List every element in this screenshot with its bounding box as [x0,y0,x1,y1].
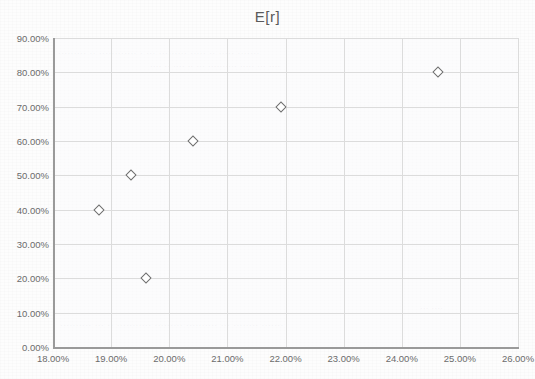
x-axis-tick-label: 18.00% [37,353,69,364]
gridline-vertical [344,38,345,347]
y-axis-tick-label: 90.00% [1,33,49,44]
y-axis-tick-label: 70.00% [1,101,49,112]
y-axis-tick-label: 0.00% [1,342,49,353]
y-axis-tick-label: 50.00% [1,170,49,181]
data-point-marker[interactable] [187,135,198,146]
data-point-marker[interactable] [432,67,443,78]
data-point-marker[interactable] [140,273,151,284]
x-axis-tick-label: 22.00% [269,353,301,364]
gridline-vertical [169,38,170,347]
y-axis-tick-label: 10.00% [1,307,49,318]
data-point-marker[interactable] [93,204,104,215]
chart-title: E[r] [0,8,535,25]
gridline-vertical [402,38,403,347]
x-axis-line [53,347,519,349]
y-axis-tick-label: 30.00% [1,239,49,250]
y-axis-tick-label: 80.00% [1,67,49,78]
x-axis-tick-label: 26.00% [502,353,534,364]
x-axis-tick-labels: 18.00%19.00%20.00%21.00%22.00%23.00%24.0… [0,353,535,369]
gridline-vertical [111,38,112,347]
y-axis-tick-label: 60.00% [1,136,49,147]
x-axis-tick-label: 20.00% [153,353,185,364]
x-axis-tick-label: 23.00% [328,353,360,364]
gridline-vertical [227,38,228,347]
x-axis-tick-label: 25.00% [444,353,476,364]
gridline-vertical [286,38,287,347]
gridline-vertical [460,38,461,347]
x-axis-tick-label: 19.00% [95,353,127,364]
y-axis-tick-labels: 0.00%10.00%20.00%30.00%40.00%50.00%60.00… [0,38,49,347]
plot-area [53,38,518,347]
y-axis-line [53,38,55,348]
data-point-marker[interactable] [125,170,136,181]
y-axis-tick-label: 40.00% [1,204,49,215]
y-axis-tick-label: 20.00% [1,273,49,284]
x-axis-tick-label: 24.00% [386,353,418,364]
chart-container: ......... .. ............ . ... ........… [0,0,535,379]
x-axis-tick-label: 21.00% [211,353,243,364]
gridline-vertical [518,38,519,347]
